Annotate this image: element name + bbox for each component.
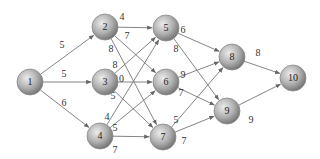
node-4: 4: [87, 123, 113, 149]
edge-2-5: [118, 27, 152, 28]
edge-weight-label: 5: [60, 39, 65, 50]
node-label: 10: [288, 72, 298, 83]
edge-weight-label: 9: [249, 114, 254, 125]
edge-weight-label: 7: [179, 87, 184, 98]
node-8: 8: [219, 44, 245, 70]
edge-weight-label: 7: [182, 135, 187, 146]
edge-weight-label: 9: [181, 69, 186, 80]
edge-9-10: [239, 84, 281, 105]
edge-4-7: [113, 136, 149, 137]
edge-2-6: [115, 36, 156, 73]
node-3: 3: [92, 69, 118, 95]
edge-weight-label: 8: [256, 47, 261, 58]
node-label: 7: [161, 131, 166, 142]
edge-7-9: [175, 116, 214, 132]
edge-weight-label: 8: [113, 59, 118, 70]
node-6: 6: [153, 69, 179, 95]
edge-3-7: [114, 91, 152, 127]
node-label: 1: [28, 76, 33, 87]
edge-weight-label: 7: [113, 144, 118, 155]
node-7: 7: [150, 124, 176, 150]
edge-weight-label: 6: [181, 24, 186, 35]
edge-5-8: [178, 33, 219, 51]
edge-weight-label: 5: [113, 122, 118, 133]
node-10: 10: [280, 65, 306, 91]
edge-1-4: [40, 90, 89, 128]
node-label: 4: [98, 130, 103, 141]
edge-weight-label: 6: [62, 97, 67, 108]
node-label: 6: [164, 76, 169, 87]
node-5: 5: [153, 15, 179, 41]
node-2: 2: [92, 14, 118, 40]
edge-weight-label: 5: [174, 114, 179, 125]
node-9: 9: [214, 98, 240, 124]
edge-1-2: [40, 35, 93, 74]
edge-weight-label: 4: [120, 11, 125, 22]
edge-weight-label: 7: [125, 30, 130, 41]
network-diagram: 556478810545768975789 12345678910: [0, 0, 320, 159]
node-label: 9: [225, 105, 230, 116]
node-label: 3: [103, 76, 108, 87]
edge-8-10: [244, 61, 279, 73]
node-label: 8: [230, 51, 235, 62]
edge-weight-label: 8: [109, 43, 114, 54]
node-label: 5: [164, 22, 169, 33]
edge-weight-label: 5: [62, 68, 67, 79]
edge-weight-label: 8: [174, 43, 179, 54]
node-1: 1: [17, 69, 43, 95]
edge-weight-label: 4: [105, 111, 110, 122]
node-label: 2: [103, 21, 108, 32]
